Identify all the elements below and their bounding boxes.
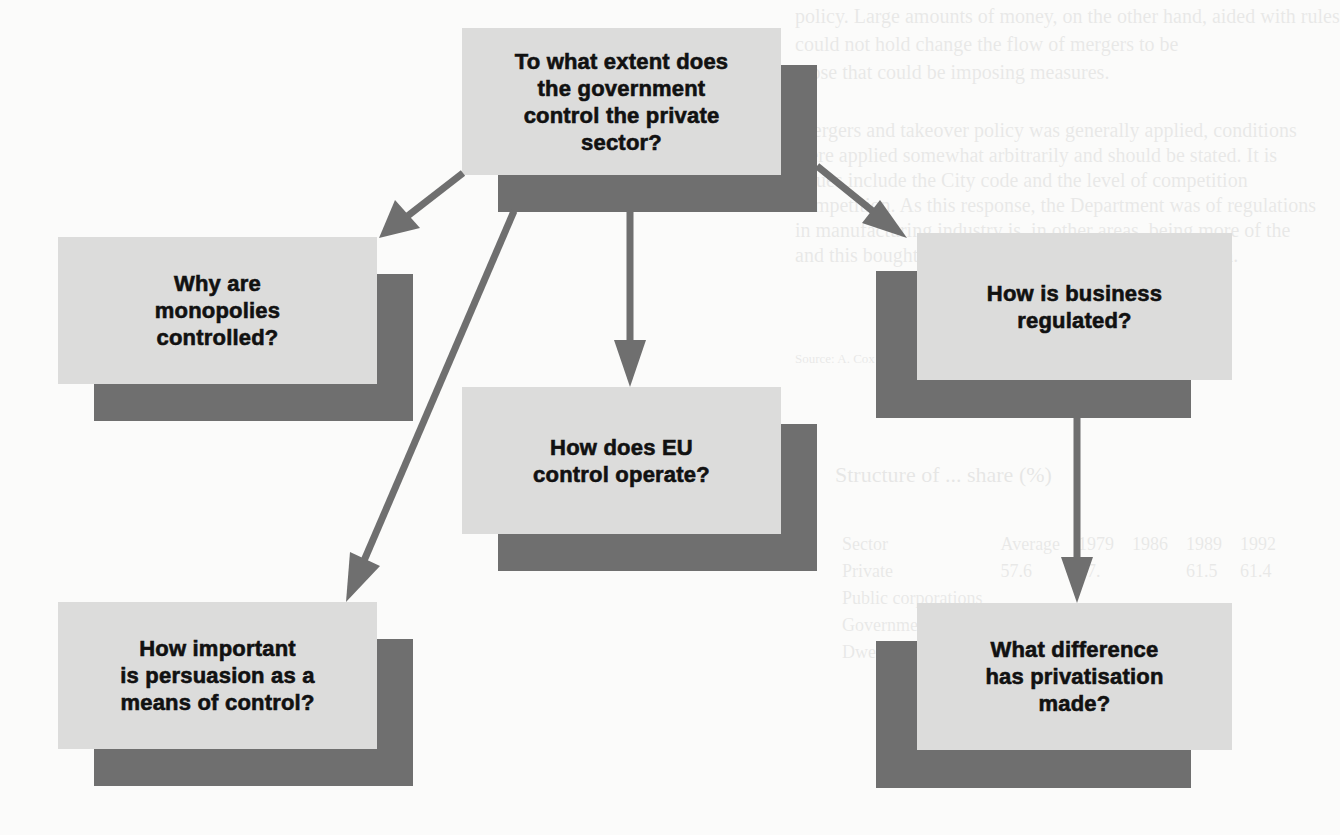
showthrough-cell: 1979 bbox=[1078, 532, 1130, 557]
node-root: To what extent does the government contr… bbox=[462, 28, 781, 175]
arrow-root-to-monopolies bbox=[379, 173, 463, 238]
showthrough-table-title: Structure of ... share (%) bbox=[835, 462, 1052, 488]
node-face: How is business regulated? bbox=[917, 233, 1232, 380]
arrow-root-to-regulation bbox=[817, 166, 907, 238]
showthrough-line: were applied somewhat arbitrarily and sh… bbox=[795, 143, 1316, 168]
showthrough-cell: Sector bbox=[842, 532, 998, 557]
node-label: How important is persuasion as a means o… bbox=[120, 635, 314, 716]
node-label: Why are monopolies controlled? bbox=[155, 270, 280, 351]
showthrough-line: issues include the City code and the lev… bbox=[795, 168, 1316, 193]
showthrough-line: those that could be imposing measures. bbox=[795, 58, 1340, 86]
showthrough-line: could not hold change the flow of merger… bbox=[795, 30, 1340, 58]
showthrough-line: policy. Large amounts of money, on the o… bbox=[795, 2, 1340, 30]
showthrough-cell: 1986 bbox=[1132, 532, 1184, 557]
node-regulation: How is business regulated? bbox=[917, 233, 1232, 380]
node-privatisation: What difference has privatisation made? bbox=[917, 603, 1232, 750]
node-face: How important is persuasion as a means o… bbox=[58, 602, 377, 749]
node-label: To what extent does the government contr… bbox=[515, 48, 729, 156]
showthrough-cell: 57.6 bbox=[1000, 559, 1076, 584]
showthrough-line: competition. As this response, the Depar… bbox=[795, 193, 1316, 218]
node-eu: How does EU control operate? bbox=[462, 387, 781, 534]
arrow-regulation-to-privatisation bbox=[1061, 418, 1093, 603]
node-face: What difference has privatisation made? bbox=[917, 603, 1232, 750]
node-label: How is business regulated? bbox=[987, 280, 1162, 334]
node-monopolies: Why are monopolies controlled? bbox=[58, 237, 377, 384]
showthrough-table-row: Private 57.6 57. 61.5 61.4 bbox=[842, 559, 1292, 584]
node-face: Why are monopolies controlled? bbox=[58, 237, 377, 384]
arrow-root-to-eu bbox=[614, 211, 646, 387]
showthrough-cell: 61.5 bbox=[1186, 559, 1238, 584]
node-label: What difference has privatisation made? bbox=[985, 636, 1163, 717]
showthrough-cell: 57. bbox=[1078, 559, 1130, 584]
showthrough-cell: Private bbox=[842, 559, 998, 584]
showthrough-cell: 1989 bbox=[1186, 532, 1238, 557]
node-face: How does EU control operate? bbox=[462, 387, 781, 534]
showthrough-line: Mergers and takeover policy was generall… bbox=[795, 118, 1316, 143]
showthrough-cell: 1992 bbox=[1240, 532, 1292, 557]
showthrough-text-block: policy. Large amounts of money, on the o… bbox=[795, 2, 1340, 86]
node-label: How does EU control operate? bbox=[533, 434, 710, 488]
node-persuasion: How important is persuasion as a means o… bbox=[58, 602, 377, 749]
showthrough-cell: Average bbox=[1000, 532, 1076, 557]
showthrough-cell: 61.4 bbox=[1240, 559, 1292, 584]
showthrough-table-header: Sector Average 1979 1986 1989 1992 bbox=[842, 532, 1292, 557]
node-face: To what extent does the government contr… bbox=[462, 28, 781, 175]
